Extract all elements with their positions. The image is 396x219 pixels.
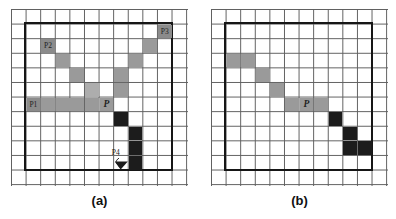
path-cell — [56, 54, 70, 68]
grid-a: P2P3P1PP4 — [11, 9, 188, 186]
cell-label: P1 — [27, 98, 41, 112]
path-cell — [314, 98, 328, 112]
path-cell — [129, 54, 143, 68]
cell-label: P3 — [158, 25, 172, 39]
cell-label: P — [100, 98, 114, 112]
path-cell: P1 — [27, 98, 41, 112]
path-cell — [129, 127, 143, 141]
path-cell — [85, 98, 99, 112]
path-cell: P2 — [41, 39, 55, 53]
path-cell — [343, 127, 357, 141]
path-cell — [241, 54, 255, 68]
path-cell: P — [100, 98, 114, 112]
path-cell — [114, 68, 128, 82]
path-cell — [270, 83, 284, 97]
path-cell — [227, 54, 241, 68]
path-cell — [129, 141, 143, 155]
path-cell — [114, 112, 128, 126]
path-cell — [343, 141, 357, 155]
cell-label: P — [300, 98, 314, 112]
path-cell — [285, 98, 299, 112]
caption-a: (a) — [11, 193, 188, 208]
path-cell — [85, 83, 99, 97]
path-cell — [329, 112, 343, 126]
path-cell: P3 — [158, 25, 172, 39]
path-cell — [56, 98, 70, 112]
caption-b: (b) — [211, 193, 388, 208]
path-cell — [143, 39, 157, 53]
path-cell — [70, 98, 84, 112]
path-cell: P — [300, 98, 314, 112]
panel-a: P2P3P1PP4 (a) — [0, 0, 198, 219]
path-cell — [256, 68, 270, 82]
path-cell — [114, 83, 128, 97]
path-cell — [41, 98, 55, 112]
path-cell — [70, 68, 84, 82]
panel-b: P (b) — [198, 0, 396, 219]
path-cell — [358, 141, 372, 155]
grid-b: P — [211, 9, 388, 186]
path-cell — [129, 156, 143, 170]
cell-label: P2 — [41, 39, 55, 53]
